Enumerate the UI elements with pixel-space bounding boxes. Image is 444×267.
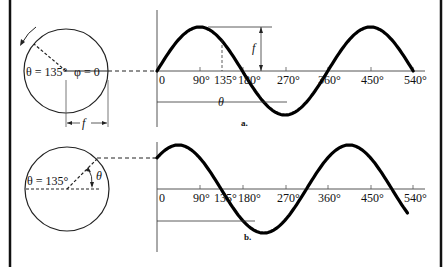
svg-text:270°: 270°	[277, 191, 300, 205]
svg-text:540°: 540°	[404, 73, 427, 87]
svg-text:0: 0	[159, 191, 165, 205]
f-amp-arrow-up-icon	[259, 27, 263, 33]
f-amp-arrow-down-icon	[259, 65, 263, 71]
caption-b: b.	[244, 232, 251, 242]
phi-label-a: φ = 0	[74, 65, 100, 79]
x-tick-labels-a: 0 90° 135° 180° 270° 360° 450° 540°	[159, 73, 427, 87]
rotation-arrow-icon	[22, 27, 36, 43]
svg-text:540°: 540°	[404, 191, 427, 205]
angle-label-b: θ	[96, 169, 102, 183]
svg-text:0: 0	[159, 73, 165, 87]
f-arrow-left-icon	[67, 121, 72, 125]
svg-text:270°: 270°	[277, 73, 300, 87]
phasor-sine-diagram: θ = 135° φ = 0 f f θ a. 0 90° 135° 180° …	[0, 0, 444, 267]
caption-a: a.	[241, 118, 248, 128]
angle-arrow-down-icon	[90, 182, 94, 188]
x-ticks-a	[200, 67, 413, 71]
f-label-phasor-a: f	[82, 116, 87, 130]
f-label-graph-a: f	[252, 41, 257, 55]
f-arrow-right-icon	[102, 121, 107, 125]
x-tick-labels-b: 0 90° 135° 180° 270° 360° 450° 540°	[159, 191, 427, 205]
svg-text:450°: 450°	[361, 73, 384, 87]
svg-text:90°: 90°	[193, 73, 210, 87]
svg-text:90°: 90°	[193, 191, 210, 205]
svg-text:135°: 135°	[214, 73, 237, 87]
theta-label-a: θ = 135°	[26, 65, 68, 79]
svg-text:360°: 360°	[318, 191, 341, 205]
theta-span-label-a: θ	[218, 95, 224, 109]
svg-text:180°: 180°	[238, 191, 261, 205]
theta-label-b: θ = 135°	[27, 174, 69, 188]
svg-text:450°: 450°	[361, 191, 384, 205]
svg-text:180°: 180°	[238, 73, 261, 87]
svg-text:135°: 135°	[214, 191, 237, 205]
svg-text:360°: 360°	[318, 73, 341, 87]
